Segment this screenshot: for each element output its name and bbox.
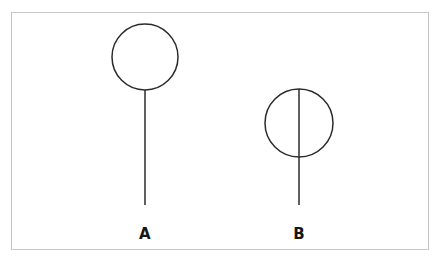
label-a: A: [139, 225, 151, 243]
figure-root: A B: [0, 0, 441, 261]
figure-background: [0, 0, 441, 261]
diagram-canvas: A B: [0, 0, 441, 261]
label-b: B: [293, 225, 305, 243]
